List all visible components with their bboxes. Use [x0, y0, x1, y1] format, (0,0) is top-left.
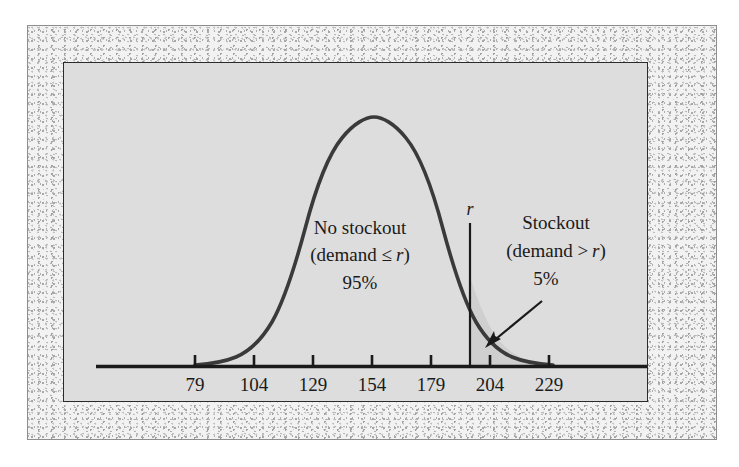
- no-stockout-cond-suffix: ): [403, 244, 409, 266]
- x-tick-label-154: 154: [358, 374, 387, 395]
- lead-time-demand-chart: 79 104 129 154 179 204 229 Lead-Time Dem…: [64, 63, 648, 402]
- chart-panel: 79 104 129 154 179 204 229 Lead-Time Dem…: [63, 62, 648, 402]
- normal-distribution-curve: [195, 117, 553, 365]
- no-stockout-percent: 95%: [343, 272, 378, 293]
- x-axis-title: Lead-Time Demand: [296, 400, 449, 402]
- x-tick-label-104: 104: [240, 374, 269, 395]
- figure-outer-frame: 79 104 129 154 179 204 229 Lead-Time Dem…: [27, 25, 717, 440]
- reorder-point-label: r: [466, 199, 474, 219]
- stockout-arrow-icon: [485, 301, 542, 348]
- x-tick-label-229: 229: [535, 374, 564, 395]
- no-stockout-label-line2: (demand ≤r): [310, 244, 409, 266]
- stockout-tail-shaded-area: [470, 277, 558, 365]
- stockout-cond-suffix: ): [600, 240, 606, 262]
- stockout-label-line1: Stockout: [522, 212, 590, 233]
- stockout-cond-prefix: (demand: [506, 240, 577, 262]
- stockout-label-line2: (demand >r): [506, 240, 606, 262]
- x-tick-label-79: 79: [186, 374, 205, 395]
- x-tick-label-204: 204: [476, 374, 505, 395]
- stockout-cond-operator: >: [577, 240, 588, 261]
- x-tick-label-179: 179: [417, 374, 446, 395]
- figure-root: 79 104 129 154 179 204 229 Lead-Time Dem…: [0, 0, 739, 467]
- no-stockout-cond-prefix: (demand: [310, 244, 381, 266]
- stockout-percent: 5%: [533, 268, 559, 289]
- no-stockout-label-line1: No stockout: [314, 217, 407, 238]
- no-stockout-cond-operator: ≤: [382, 244, 392, 265]
- x-tick-label-129: 129: [299, 374, 328, 395]
